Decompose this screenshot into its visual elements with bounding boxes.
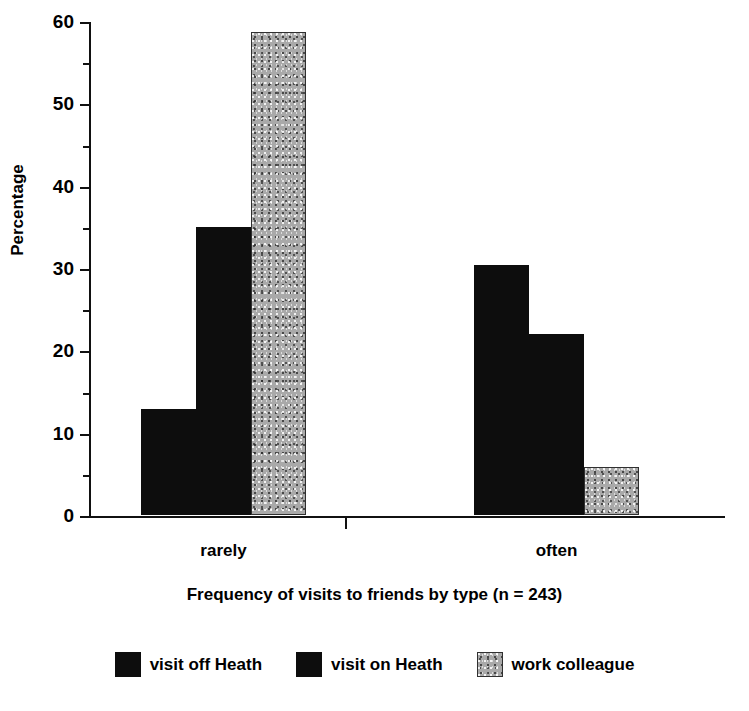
y-axis-tick-label: 40 bbox=[53, 176, 74, 198]
y-axis-label: Percentage bbox=[8, 130, 28, 290]
y-axis-minor-tick bbox=[83, 228, 89, 230]
legend-swatch-black bbox=[115, 652, 141, 677]
legend-entry: work colleague bbox=[477, 652, 635, 677]
bar bbox=[251, 32, 306, 515]
bar bbox=[584, 467, 639, 515]
y-axis-tick-label: 10 bbox=[53, 423, 74, 445]
bar bbox=[474, 265, 529, 515]
chart-caption: Frequency of visits to friends by type (… bbox=[0, 585, 749, 605]
y-axis-minor-tick bbox=[83, 146, 89, 148]
chart-legend: visit off Heathvisit on Heathwork collea… bbox=[0, 652, 749, 677]
y-axis-tick-label: 0 bbox=[63, 505, 74, 527]
y-axis-tick-label: 20 bbox=[53, 340, 74, 362]
y-axis-tick: 0 bbox=[80, 516, 89, 518]
legend-entry: visit on Heath bbox=[296, 652, 442, 677]
y-axis-tick: 30 bbox=[80, 269, 89, 271]
legend-label: visit on Heath bbox=[331, 655, 442, 675]
y-axis-tick-label: 60 bbox=[53, 11, 74, 33]
legend-swatch-gray bbox=[477, 652, 503, 677]
y-axis-line bbox=[89, 22, 91, 518]
y-axis-tick-label: 50 bbox=[53, 93, 74, 115]
y-axis-tick: 20 bbox=[80, 351, 89, 353]
x-axis-category-label: often bbox=[497, 541, 617, 561]
y-axis-tick: 40 bbox=[80, 187, 89, 189]
y-axis-tick: 10 bbox=[80, 434, 89, 436]
x-axis-category-label: rarely bbox=[164, 541, 284, 561]
legend-entry: visit off Heath bbox=[115, 652, 262, 677]
y-axis-minor-tick bbox=[83, 310, 89, 312]
plot-area: 0102030405060 bbox=[89, 22, 725, 517]
bar bbox=[196, 227, 251, 515]
y-axis-minor-tick bbox=[83, 63, 89, 65]
legend-label: visit off Heath bbox=[150, 655, 262, 675]
x-axis-line bbox=[89, 516, 725, 518]
y-axis-minor-tick bbox=[83, 475, 89, 477]
bar bbox=[529, 334, 584, 515]
bar-chart-figure: Percentage 0102030405060 rarelyoften Fre… bbox=[0, 0, 749, 711]
y-axis-tick: 60 bbox=[80, 22, 89, 24]
legend-swatch-black bbox=[296, 652, 322, 677]
legend-label: work colleague bbox=[512, 655, 635, 675]
x-axis-center-tick bbox=[345, 518, 347, 529]
bar bbox=[141, 409, 196, 515]
y-axis-minor-tick bbox=[83, 393, 89, 395]
y-axis-tick-label: 30 bbox=[53, 258, 74, 280]
y-axis-tick: 50 bbox=[80, 104, 89, 106]
